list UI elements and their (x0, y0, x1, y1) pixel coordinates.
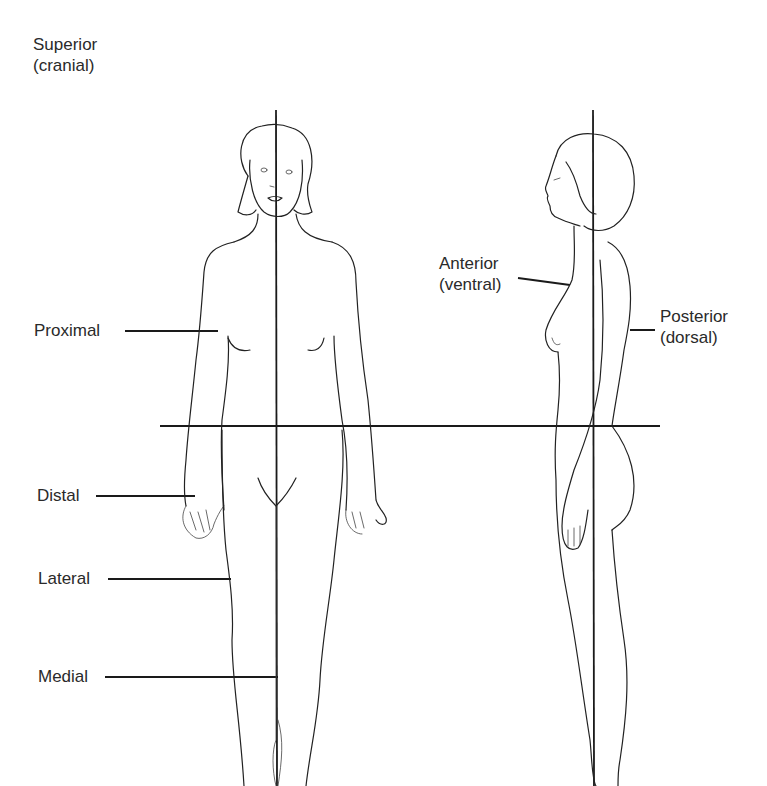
label-lateral-term: Lateral (38, 568, 90, 589)
label-distal-term: Distal (37, 485, 80, 506)
anatomy-figures-drawing (0, 0, 767, 786)
label-proximal-term: Proximal (34, 320, 100, 341)
anatomy-diagram: Superior (cranial) Proximal Distal Later… (0, 0, 767, 786)
label-posterior: Posterior (dorsal) (660, 306, 728, 348)
label-anterior-term: Anterior (439, 253, 501, 274)
side-figure (545, 134, 634, 786)
front-figure (183, 125, 387, 786)
label-anterior: Anterior (ventral) (439, 253, 501, 295)
label-lateral: Lateral (38, 568, 90, 589)
label-medial: Medial (38, 666, 88, 687)
label-superior: Superior (cranial) (33, 34, 97, 76)
anterior-leader (518, 278, 570, 285)
side-midline (593, 110, 594, 786)
label-medial-term: Medial (38, 666, 88, 687)
label-superior-term: Superior (33, 34, 97, 55)
label-posterior-term: Posterior (660, 306, 728, 327)
label-proximal: Proximal (34, 320, 100, 341)
label-anterior-alt: (ventral) (439, 274, 501, 295)
label-superior-alt: (cranial) (33, 55, 97, 76)
label-distal: Distal (37, 485, 80, 506)
label-posterior-alt: (dorsal) (660, 327, 728, 348)
